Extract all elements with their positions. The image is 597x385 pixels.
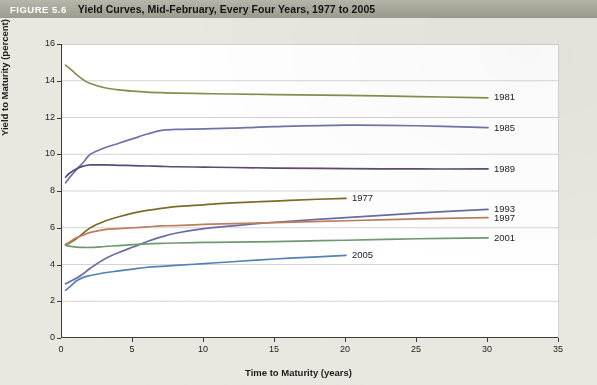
x-tick-label-25: 25: [403, 344, 429, 354]
chart-svg: [62, 44, 559, 338]
figure-body: Yield to Maturity (percent) Time to Matu…: [0, 18, 597, 385]
x-tick-label-15: 15: [261, 344, 287, 354]
x-tick-label-0: 0: [48, 344, 74, 354]
series-label-1989: 1989: [494, 163, 515, 174]
x-tick-label-30: 30: [474, 344, 500, 354]
y-tick-label-6: 6: [35, 222, 55, 232]
y-tick-label-0: 0: [35, 332, 55, 342]
x-tick-mark-20: [345, 338, 346, 342]
series-label-2001: 2001: [494, 232, 515, 243]
figure-title: Yield Curves, Mid-February, Every Four Y…: [78, 3, 375, 15]
series-line-2001: [66, 238, 488, 248]
y-tick-label-2: 2: [35, 295, 55, 305]
y-tick-label-10: 10: [35, 148, 55, 158]
series-line-2005: [66, 255, 346, 290]
y-tick-label-12: 12: [35, 112, 55, 122]
x-tick-mark-15: [274, 338, 275, 342]
x-tick-label-20: 20: [332, 344, 358, 354]
series-label-1977: 1977: [352, 192, 373, 203]
series-label-1981: 1981: [494, 91, 515, 102]
x-axis-title: Time to Maturity (years): [0, 367, 597, 378]
y-tick-label-4: 4: [35, 259, 55, 269]
y-axis-title: Yield to Maturity (percent): [0, 6, 10, 136]
series-line-1981: [66, 65, 488, 98]
figure-caption-bar: FIGURE 5.6 Yield Curves, Mid-February, E…: [0, 0, 597, 18]
x-tick-mark-25: [416, 338, 417, 342]
x-tick-mark-10: [203, 338, 204, 342]
y-tick-label-14: 14: [35, 75, 55, 85]
plot-area: [61, 44, 558, 338]
series-label-1997: 1997: [494, 212, 515, 223]
series-line-1993: [66, 209, 488, 283]
x-tick-mark-30: [487, 338, 488, 342]
series-line-1989: [66, 165, 488, 177]
series-label-2005: 2005: [352, 249, 373, 260]
x-tick-mark-35: [558, 338, 559, 342]
y-tick-label-8: 8: [35, 185, 55, 195]
x-tick-label-35: 35: [545, 344, 571, 354]
series-label-1985: 1985: [494, 122, 515, 133]
y-tick-label-16: 16: [35, 38, 55, 48]
y-tick-mark-0: [57, 338, 61, 339]
x-tick-mark-5: [132, 338, 133, 342]
x-tick-label-5: 5: [119, 344, 145, 354]
figure-number: FIGURE 5.6: [10, 4, 67, 15]
x-tick-label-10: 10: [190, 344, 216, 354]
